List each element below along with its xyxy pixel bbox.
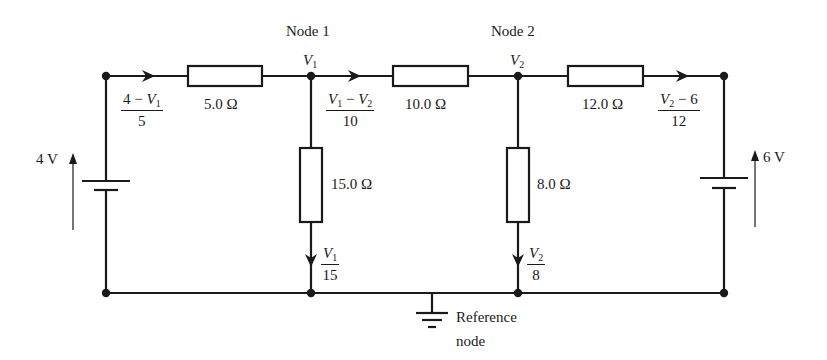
junction-bottom-node1 xyxy=(307,289,315,297)
node1-voltage-label: V1 xyxy=(303,53,317,70)
resistor-15ohm xyxy=(300,148,322,222)
node1-title: Node 1 xyxy=(286,24,330,39)
source-right-label: 6 V xyxy=(763,150,785,165)
source-left-label: 4 V xyxy=(36,152,58,167)
current-i1-numerator: 4 − V1 xyxy=(121,91,163,111)
voltage-arrow-left-head xyxy=(69,153,77,164)
junction-node1 xyxy=(307,72,315,80)
resistor-5ohm-label: 5.0 Ω xyxy=(204,97,238,112)
reference-node-label-line1: Reference xyxy=(456,310,517,325)
current-i3-numerator: V2 − 6 xyxy=(658,91,700,111)
current-i4-denominator: 15 xyxy=(323,265,338,284)
voltage-arrow-right-head xyxy=(751,150,759,161)
node2-title: Node 2 xyxy=(491,24,535,39)
current-i2-expression: V1 − V2 10 xyxy=(326,91,374,130)
current-i1-denominator: 5 xyxy=(138,111,146,130)
current-i3-denominator: 12 xyxy=(671,111,686,130)
current-i2-denominator: 10 xyxy=(343,111,358,130)
current-i4-numerator: V1 xyxy=(321,245,339,265)
current-i3-expression: V2 − 6 12 xyxy=(658,91,700,130)
current-i2-numerator: V1 − V2 xyxy=(326,91,374,111)
current-i5-expression: V2 8 xyxy=(527,245,545,284)
current-i5-numerator: V2 xyxy=(527,245,545,265)
resistor-12ohm xyxy=(568,66,643,86)
junction-bottom-left xyxy=(102,289,110,297)
junction-top-left xyxy=(102,72,110,80)
node2-voltage-label: V2 xyxy=(510,53,524,70)
reference-node-label-line2: node xyxy=(456,334,485,349)
current-i1-expression: 4 − V1 5 xyxy=(121,91,163,130)
junction-bottom-node2 xyxy=(514,289,522,297)
junction-top-right xyxy=(720,72,728,80)
circuit-diagram xyxy=(0,0,827,360)
resistor-5ohm xyxy=(188,66,262,86)
junction-node2 xyxy=(514,72,522,80)
resistor-8ohm-label: 8.0 Ω xyxy=(537,177,571,192)
resistor-12ohm-label: 12.0 Ω xyxy=(582,97,623,112)
resistor-10ohm-label: 10.0 Ω xyxy=(405,97,446,112)
resistor-10ohm xyxy=(393,66,468,86)
current-i5-denominator: 8 xyxy=(532,265,540,284)
current-i4-expression: V1 15 xyxy=(321,245,339,284)
resistor-8ohm xyxy=(507,148,529,222)
junction-bottom-right xyxy=(720,289,728,297)
resistor-15ohm-label: 15.0 Ω xyxy=(331,177,372,192)
